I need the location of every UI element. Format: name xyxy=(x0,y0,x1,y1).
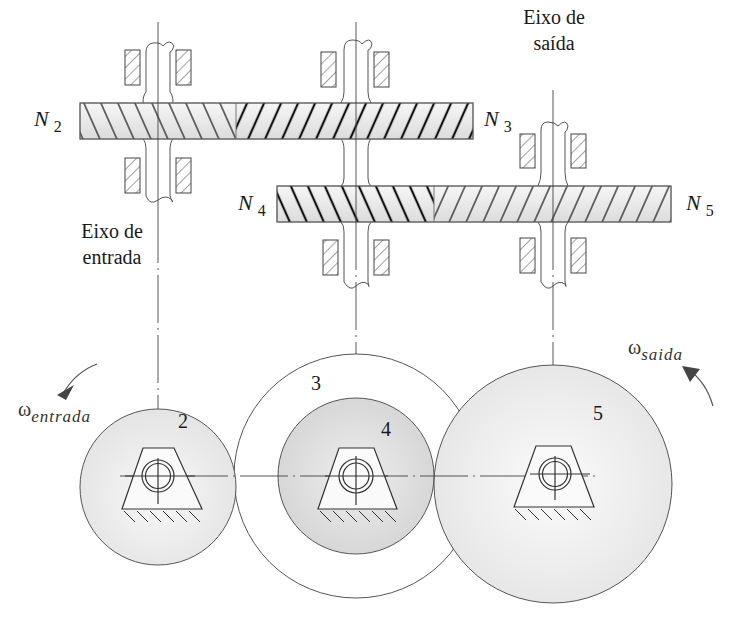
omega-input-label: ωentrada xyxy=(18,398,91,427)
bearing-icon xyxy=(125,50,140,85)
rotation-arrow-input-icon xyxy=(57,364,97,400)
gear-label-n3: N3 xyxy=(484,106,512,136)
countershaft-section xyxy=(321,40,389,288)
input-shaft-label: Eixo de entrada xyxy=(72,218,152,270)
bearing-icon xyxy=(125,158,140,193)
gear-pair-n4-n5-section xyxy=(277,186,671,222)
bearing-icon xyxy=(321,52,336,87)
gear-number-3: 3 xyxy=(311,372,321,395)
gear-label-n4: N4 xyxy=(238,190,266,220)
bearing-icon xyxy=(571,134,586,168)
bearing-icon xyxy=(176,50,191,85)
bearing-icon xyxy=(176,158,191,193)
gear-number-2: 2 xyxy=(178,410,188,433)
gear-train-drawing xyxy=(0,0,736,620)
omega-output-label: ωsaida xyxy=(628,336,683,365)
output-shaft-label: Eixo de saída xyxy=(512,4,596,56)
gear-label-n2: N2 xyxy=(34,106,62,136)
bearing-icon xyxy=(374,52,389,87)
bearing-icon xyxy=(323,240,338,275)
bearing-icon xyxy=(520,238,535,273)
gear-number-4: 4 xyxy=(381,418,391,441)
bearing-icon xyxy=(571,238,586,273)
compound-gear-train-diagram: N2 N3 N4 N5 Eixo de entrada Eixo de saíd… xyxy=(0,0,736,620)
gear-number-5: 5 xyxy=(593,402,603,425)
bearing-icon xyxy=(520,134,535,168)
gear-label-n5: N5 xyxy=(686,190,714,220)
gear-pair-n2-n3-section xyxy=(80,103,473,139)
rotation-arrow-output-icon xyxy=(682,366,713,406)
bearing-icon xyxy=(374,240,389,275)
